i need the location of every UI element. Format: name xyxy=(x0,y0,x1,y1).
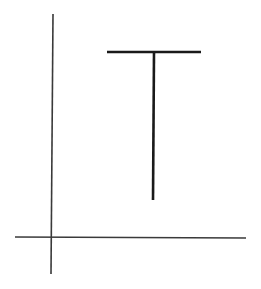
line-drawing xyxy=(0,0,261,289)
vertical-axis-line xyxy=(51,14,53,274)
horizontal-axis-line xyxy=(15,237,246,238)
t-shape-stem xyxy=(153,52,154,200)
diagram-canvas xyxy=(0,0,261,289)
